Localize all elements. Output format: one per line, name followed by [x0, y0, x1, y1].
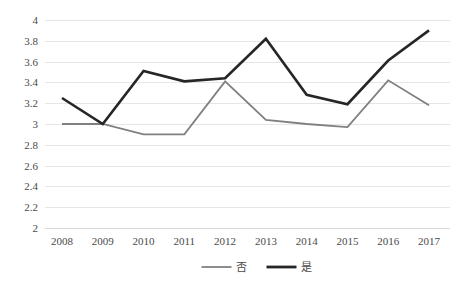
chart-legend: 否是 — [202, 261, 312, 273]
x-tick-label-2013: 2013 — [255, 235, 278, 247]
series-line-是 — [62, 30, 429, 124]
x-tick-label-2010: 2010 — [133, 235, 156, 247]
chart-canvas: 43.83.63.43.232.82.62.42.22 200820092010… — [0, 0, 463, 290]
x-tick-label-2014: 2014 — [296, 235, 319, 247]
x-axis-tick-labels: 2008200920102011201220132014201520162017 — [51, 235, 441, 247]
y-tick-label: 2.6 — [24, 160, 38, 172]
x-tick-label-2008: 2008 — [51, 235, 74, 247]
legend-label-否: 否 — [236, 261, 247, 273]
y-tick-label: 3.2 — [24, 97, 38, 109]
y-tick-label: 4 — [33, 14, 39, 26]
y-tick-label: 2.8 — [24, 139, 38, 151]
line-chart: 43.83.63.43.232.82.62.42.22 200820092010… — [0, 0, 463, 290]
x-tick-label-2009: 2009 — [92, 235, 115, 247]
y-tick-label: 2 — [33, 222, 39, 234]
y-tick-label: 2.2 — [24, 201, 38, 213]
x-tick-label-2012: 2012 — [214, 235, 236, 247]
x-tick-label-2011: 2011 — [174, 235, 196, 247]
x-tick-label-2015: 2015 — [336, 235, 359, 247]
legend-label-是: 是 — [301, 261, 312, 273]
x-tick-label-2016: 2016 — [377, 235, 400, 247]
y-axis-tick-labels: 43.83.63.43.232.82.62.42.22 — [24, 14, 38, 234]
x-tick-label-2017: 2017 — [418, 235, 441, 247]
y-tick-label: 3.8 — [24, 35, 38, 47]
y-tick-label: 3.6 — [24, 56, 38, 68]
y-tick-label: 3.4 — [24, 76, 38, 88]
y-tick-label: 3 — [33, 118, 39, 130]
y-tick-label: 2.4 — [24, 180, 38, 192]
